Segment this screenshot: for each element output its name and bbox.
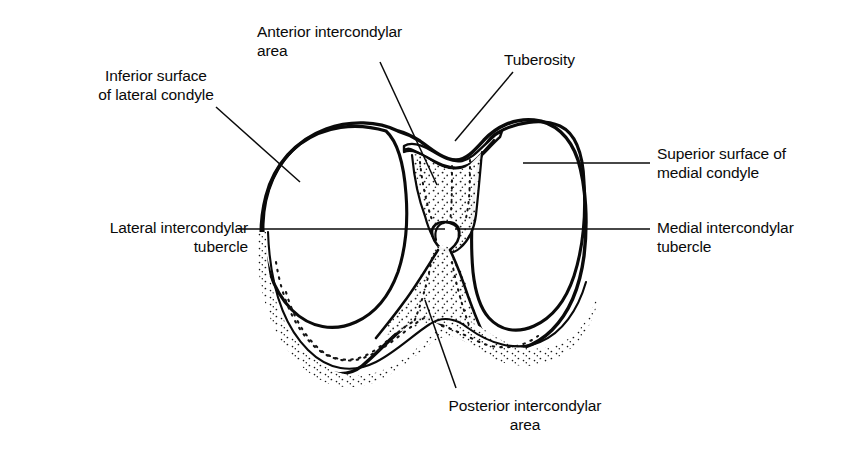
label-tuberosity: Tuberosity (504, 50, 664, 69)
label-medial-intercondylar-tubercle: Medial intercondylar tubercle (657, 218, 862, 256)
anatomical-figure: Inferior surface of lateral condyle Ante… (0, 0, 862, 471)
label-lateral-intercondylar-tubercle: Lateral intercondylar tubercle (18, 218, 248, 256)
label-posterior-intercondylar-area: Posterior intercondylar area (405, 396, 645, 434)
label-anterior-intercondylar-area: Anterior intercondylar area (257, 22, 473, 60)
label-superior-surface-of-medial-condyle: Superior surface of medial condyle (657, 144, 862, 182)
leader-inferior-lateral-condyle (216, 107, 300, 182)
medial-condyle-outline (472, 122, 585, 330)
label-inferior-surface-of-lateral-condyle: Inferior surface of lateral condyle (56, 66, 256, 104)
